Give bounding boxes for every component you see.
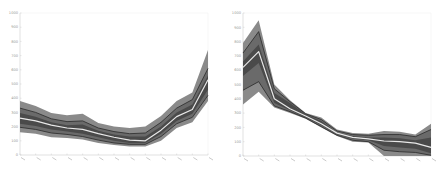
x-tick-label [354,159,358,162]
x-tick-label [322,159,326,162]
x-tick-label [260,159,264,162]
x-tick-label [52,158,56,161]
x-tick-label [432,159,436,162]
left-chart-panel: 01002003004005006007008009001000 [0,0,223,173]
y-tick-label: 400 [11,96,19,100]
y-tick-label: 200 [234,126,242,130]
y-tick-label: 100 [11,139,19,143]
y-tick-label: 500 [234,83,242,87]
x-tick-label [369,159,373,162]
x-tick-label [99,158,103,161]
x-tick-label [275,159,279,162]
x-tick-label [416,159,420,162]
x-tick-label [84,158,88,161]
y-tick-label: 1000 [232,11,242,15]
y-tick-label: 800 [234,40,242,44]
y-tick-label: 600 [234,68,242,72]
y-tick-label: 500 [11,82,19,86]
x-tick-label [162,158,166,161]
x-tick-label [146,158,150,161]
y-tick-label: 900 [11,25,19,29]
x-tick-label [21,158,25,161]
y-tick-label: 400 [234,97,242,101]
y-tick-label: 0 [16,153,19,157]
y-tick-label: 700 [11,54,19,58]
right-fan-chart: 01002003004005006007008009001000 [223,0,446,173]
x-tick-label [401,159,405,162]
y-tick-label: 1000 [9,11,19,15]
right-chart-panel: 01002003004005006007008009001000 [223,0,446,173]
left-fan-chart: 01002003004005006007008009001000 [0,0,223,173]
x-tick-label [68,158,72,161]
y-tick-label: 200 [11,125,19,129]
x-tick-label [115,158,119,161]
y-tick-label: 600 [11,68,19,72]
y-tick-label: 300 [234,111,242,115]
x-tick-label [131,158,135,161]
x-tick-label [244,159,248,162]
y-tick-label: 300 [11,111,19,115]
x-tick-label [178,158,182,161]
x-tick-label [307,159,311,162]
x-tick-label [385,159,389,162]
y-tick-label: 700 [234,54,242,58]
x-tick-label [209,158,213,161]
x-tick-label [338,159,342,162]
y-tick-label: 0 [239,154,242,158]
y-tick-label: 900 [234,26,242,30]
y-tick-label: 800 [11,40,19,44]
y-tick-label: 100 [234,140,242,144]
x-tick-label [291,159,295,162]
x-tick-label [37,158,41,161]
x-tick-label [193,158,197,161]
